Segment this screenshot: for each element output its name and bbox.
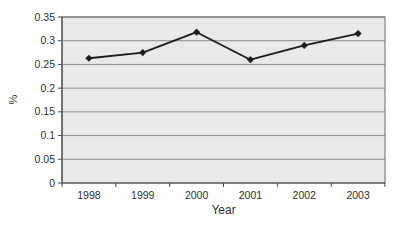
x-tick-label-2000: 2000 — [185, 189, 209, 201]
y-tick-label: 0.3 — [40, 34, 55, 46]
y-tick-label: 0.15 — [35, 105, 56, 117]
y-tick-label: 0.1 — [40, 129, 55, 141]
x-axis-title: Year — [62, 204, 385, 216]
y-tick-label: 0.35 — [35, 11, 56, 23]
y-tick-label: 0.25 — [35, 58, 56, 70]
x-tick-label-1999: 1999 — [131, 189, 155, 201]
plot-area — [62, 17, 385, 183]
y-axis-title: % — [8, 95, 19, 105]
y-tick-label: 0.05 — [35, 153, 56, 165]
x-tick-label-2003: 2003 — [346, 189, 370, 201]
chart-canvas: 00.050.10.150.20.250.30.3519981999200020… — [0, 0, 403, 233]
y-tick-label: 0.2 — [40, 82, 55, 94]
y-tick-label: 0 — [49, 177, 55, 189]
line-chart-figure: 00.050.10.150.20.250.30.3519981999200020… — [0, 0, 403, 233]
x-tick-label-1998: 1998 — [77, 189, 101, 201]
x-tick-label-2002: 2002 — [293, 189, 317, 201]
x-tick-label-2001: 2001 — [239, 189, 263, 201]
